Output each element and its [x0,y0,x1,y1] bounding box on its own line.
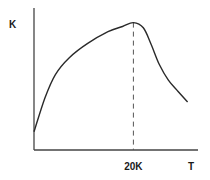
chart: K T 20K [0,0,210,180]
x-axis-label: T [188,161,194,172]
y-axis-label: K [9,19,17,30]
x-tick-label: 20K [124,161,143,172]
series-line-k [34,23,188,132]
